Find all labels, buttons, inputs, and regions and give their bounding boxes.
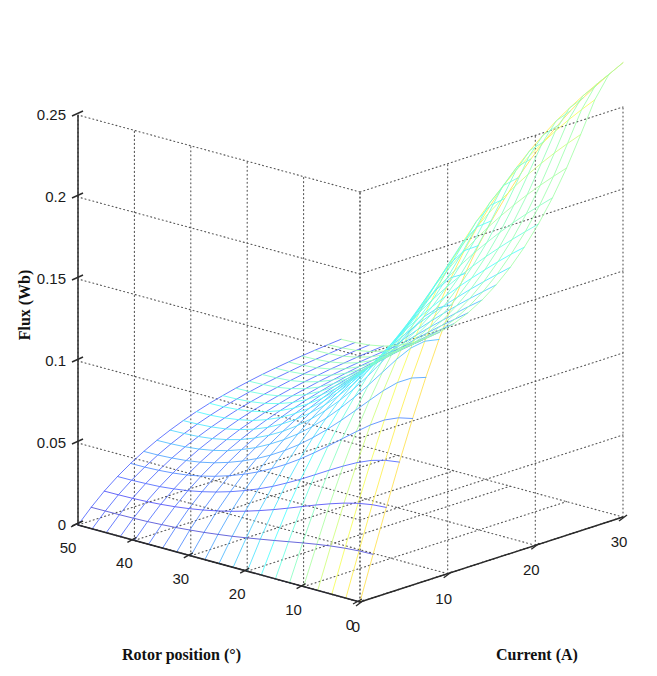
y-axis-line (360, 517, 623, 602)
mesh-line-constant-current (315, 85, 597, 357)
x-tick-label: 30 (172, 570, 189, 587)
y-tick-label: 10 (435, 590, 452, 607)
grid-floor-x (247, 486, 510, 571)
z-tick-label: 0 (58, 516, 66, 533)
plot-canvas: 50403020100010203000.050.10.150.20.25 (0, 0, 657, 676)
mesh-line-constant-current (183, 274, 465, 430)
grid-wall-right-h (360, 353, 623, 438)
mesh-line-constant-current (328, 74, 610, 352)
mesh-line-constant-rotor (247, 267, 510, 571)
y-tick-label: 30 (611, 533, 628, 550)
z-tick-label: 0.05 (37, 434, 66, 451)
grid-wall-left-h (78, 279, 360, 356)
z-tick-label: 0.15 (37, 270, 66, 287)
mesh-line-constant-rotor (360, 63, 623, 602)
surface-mesh (78, 63, 623, 602)
grid-floor-y (166, 497, 448, 574)
grid-wall-right-h (360, 435, 623, 520)
grid-wall-right-h (360, 189, 623, 274)
x-tick-label: 40 (116, 554, 133, 571)
z-tick-label: 0.1 (45, 352, 66, 369)
x-tick-label: 20 (229, 585, 246, 602)
mesh-line-constant-rotor (219, 300, 482, 563)
axis-layer (71, 111, 627, 606)
grid-wall-left-h (78, 361, 360, 438)
grid-wall-right-h (360, 107, 623, 192)
mesh-line-constant-rotor (177, 332, 440, 552)
x-tick-label: 10 (285, 601, 302, 618)
axis-tick-labels: 50403020100010203000.050.10.150.20.25 (37, 106, 628, 635)
y-tick-label: 20 (523, 561, 540, 578)
mesh-line-constant-rotor (346, 74, 609, 598)
grid-wall-left-h (78, 197, 360, 274)
mesh-line-constant-rotor (163, 339, 426, 548)
mesh-line-constant-current (104, 491, 386, 511)
grid-wall-left-h (78, 115, 360, 192)
figure-3d-surface-plot: 50403020100010203000.050.10.150.20.25 Ro… (0, 0, 657, 676)
z-tick-label: 0.2 (45, 188, 66, 205)
z-tick-label: 0.25 (37, 106, 66, 123)
mesh-line-constant-rotor (332, 100, 595, 595)
y-tick-label: 0 (352, 618, 360, 635)
mesh-line-constant-current (196, 246, 478, 421)
grid-floor-y (341, 440, 623, 517)
mesh-line-constant-current (341, 63, 623, 346)
x-tick-label: 50 (60, 539, 77, 556)
